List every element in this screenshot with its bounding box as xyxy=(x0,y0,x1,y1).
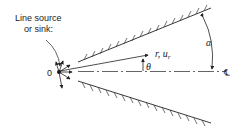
wedge-flow-diagram: Line source or sink: 0 xyxy=(0,0,246,136)
lower-wall xyxy=(78,81,211,126)
upper-wall xyxy=(78,5,211,62)
radial-ray-arrow xyxy=(60,55,148,71)
radial-arrows-icon xyxy=(56,61,72,88)
source-label-line1: Line source xyxy=(15,13,62,23)
ray-label: r, ur xyxy=(155,48,171,61)
source-pointer-arrow xyxy=(46,40,60,66)
origin-label: 0 xyxy=(47,68,52,78)
centerline-label: ℄ xyxy=(223,68,230,78)
theta-label: θ xyxy=(146,61,151,72)
source-label-line2: or sink: xyxy=(24,24,53,34)
alpha-label: α xyxy=(206,37,212,48)
